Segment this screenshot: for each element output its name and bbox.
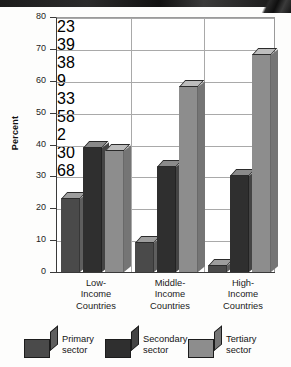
cube-face-side <box>214 325 222 351</box>
x-axis-label-high: High- Income Countries <box>208 278 278 312</box>
chart-legend: Primary sectorSecondary sectorTertiary s… <box>0 328 291 367</box>
legend-label-primary: Primary sector <box>62 334 94 356</box>
bar-face-front <box>83 147 102 272</box>
scan-artifact-band <box>0 0 291 7</box>
bar-face-front <box>135 242 154 272</box>
y-axis-tick-label: 0 <box>18 267 46 276</box>
bar-high-tertiary <box>252 48 271 272</box>
bar-low-primary <box>61 192 80 272</box>
gridline-horizontal <box>57 82 274 83</box>
bar-face-front <box>252 54 271 272</box>
y-axis-title: Percent <box>10 98 20 168</box>
y-axis-tick-label: 80 <box>18 12 46 21</box>
bar-high-secondary <box>230 169 249 272</box>
x-axis-label-mid: Middle- Income Countries <box>135 278 205 312</box>
bar-value-label-low-secondary: 39 <box>57 36 274 54</box>
y-axis-tick-label: 70 <box>18 44 46 53</box>
cube-face-front <box>24 339 50 358</box>
y-axis-tick-label: 20 <box>18 203 46 212</box>
y-axis-tick-label: 30 <box>18 171 46 180</box>
plot-area: 2339389335823068 <box>56 17 275 272</box>
gridline-horizontal <box>57 18 274 19</box>
bar-face-side <box>271 49 278 272</box>
legend-label-tertiary: Tertiary sector <box>226 334 256 356</box>
cube-face-side <box>50 325 58 351</box>
y-axis-tick-label: 40 <box>18 140 46 149</box>
bar-series-container: 2339389335823068 <box>57 18 274 180</box>
bar-face-front <box>230 175 249 272</box>
gridline-horizontal <box>57 114 274 115</box>
bar-value-label-mid-tertiary: 58 <box>57 108 274 126</box>
cube-face-front <box>188 339 214 358</box>
bar-value-label-low-primary: 23 <box>57 18 274 36</box>
x-axis-baseline <box>56 272 275 273</box>
y-axis-tick-label: 60 <box>18 76 46 85</box>
bar-low-secondary <box>83 141 102 272</box>
y-axis-tick-label: 50 <box>18 108 46 117</box>
bar-face-side <box>198 81 205 272</box>
bar-high-primary <box>208 259 227 272</box>
bar-face-front <box>179 86 198 272</box>
cube-swatch-secondary <box>105 332 139 358</box>
chart-figure: 80706050403020100 Percent 23393893358230… <box>0 0 291 367</box>
gridline-horizontal <box>57 50 274 51</box>
cube-swatch-tertiary <box>188 332 222 358</box>
bar-mid-primary <box>135 236 154 272</box>
cube-face-front <box>105 339 131 358</box>
bar-face-front <box>157 166 176 272</box>
bar-mid-secondary <box>157 160 176 272</box>
cube-face-side <box>131 325 139 351</box>
bar-value-label-low-tertiary: 38 <box>57 54 274 72</box>
bar-face-front <box>61 198 80 272</box>
bar-mid-tertiary <box>179 80 198 272</box>
legend-label-secondary: Secondary sector <box>143 334 187 356</box>
bar-face-front <box>105 150 124 272</box>
bar-low-tertiary <box>105 144 124 272</box>
bar-face-side <box>124 145 131 272</box>
y-axis-tick-label: 10 <box>18 235 46 244</box>
x-axis-label-low: Low- Income Countries <box>61 278 131 312</box>
scan-artifact-corner <box>249 0 291 13</box>
gridline-group-separator <box>131 18 132 272</box>
cube-swatch-primary <box>24 332 58 358</box>
bar-value-label-mid-secondary: 33 <box>57 90 274 108</box>
